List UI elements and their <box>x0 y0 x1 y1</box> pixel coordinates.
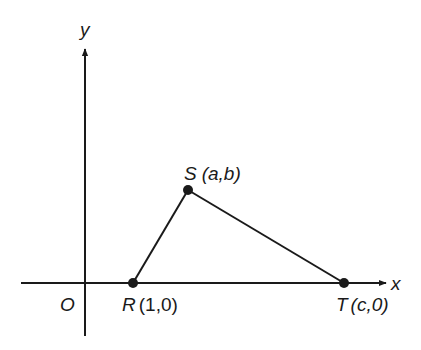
segment-st <box>188 190 344 283</box>
point-s-label: S(a,b) <box>184 163 241 184</box>
y-axis-label: y <box>78 19 91 40</box>
point-t <box>339 278 349 288</box>
origin-label: O <box>60 294 75 315</box>
coordinate-diagram: y x O R(1,0) S(a,b) T(c,0) <box>0 0 421 350</box>
segment-rs <box>133 190 188 283</box>
point-r <box>128 278 138 288</box>
point-t-label: T(c,0) <box>336 294 389 315</box>
x-axis-label: x <box>390 273 402 294</box>
point-r-label: R(1,0) <box>122 294 178 315</box>
point-s <box>183 185 193 195</box>
